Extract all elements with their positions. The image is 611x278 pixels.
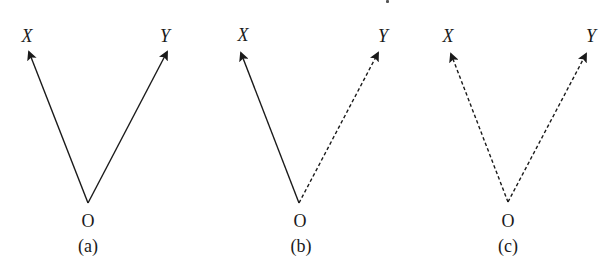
panel-b-x-label: X — [238, 26, 249, 44]
panel-c-origin-label: O — [502, 212, 515, 230]
panel-a-y-label: Y — [160, 27, 170, 45]
panel-c-vector-y-arrow — [508, 54, 586, 202]
panel-a-origin-label: O — [82, 212, 95, 230]
panel-a-arrows — [29, 52, 167, 203]
panel-b-vector-x-arrow — [241, 53, 299, 203]
panel-c-y-label: Y — [586, 27, 596, 45]
panel-a-vector-y-arrow — [88, 52, 167, 203]
panel-a-caption: (a) — [78, 237, 98, 255]
panel-c-arrows — [451, 54, 586, 202]
panel-c-caption: (c) — [498, 237, 518, 255]
panel-c-vector-x-arrow — [451, 54, 508, 202]
panel-a-vector-x-arrow — [29, 52, 88, 203]
scan-artifact-mark — [386, 0, 389, 3]
panel-b-arrows — [241, 53, 378, 203]
panel-b-y-label: Y — [378, 27, 388, 45]
vector-diagram-figure: X Y O (a) X Y O (b) X Y O (c) — [0, 0, 611, 278]
panel-c-x-label: X — [443, 27, 454, 45]
panel-b-caption: (b) — [291, 237, 312, 255]
panel-a-x-label: X — [22, 27, 33, 45]
panel-b-origin-label: O — [294, 212, 307, 230]
panel-b-vector-y-arrow — [299, 53, 378, 203]
